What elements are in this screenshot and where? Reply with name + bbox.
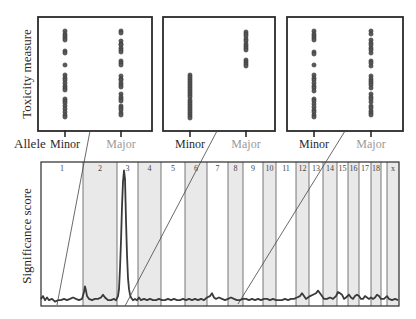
significance-axis-title: Significance score <box>19 188 34 284</box>
data-point-minor <box>312 63 316 67</box>
data-point-major <box>119 85 123 89</box>
chromosome-label-9: 9 <box>251 164 255 173</box>
data-point-minor <box>312 52 316 56</box>
inset-2: MinorMajor <box>163 17 275 151</box>
chromosome-label-x: x <box>391 164 395 173</box>
chromosome-label-4: 4 <box>148 164 152 173</box>
chromosome-label-12: 12 <box>299 164 307 173</box>
data-point-major <box>369 113 373 117</box>
chromosome-label-14: 14 <box>326 164 334 173</box>
chromosome-band-15 <box>337 162 348 306</box>
chromosome-band-3 <box>117 162 138 306</box>
data-point-minor <box>312 38 316 42</box>
data-point-minor <box>188 116 192 120</box>
chromosome-label-3: 3 <box>126 164 130 173</box>
chromosome-band-17 <box>359 162 371 306</box>
chromosome-label-2: 2 <box>98 164 102 173</box>
data-point-major <box>119 31 123 35</box>
chromosome-band-5 <box>161 162 185 306</box>
allele-insets: MinorMajorMinorMajorMinorMajor <box>38 17 403 151</box>
data-point-major <box>369 100 373 104</box>
allele-axis-title: Allele <box>14 136 46 151</box>
data-point-major <box>119 50 123 54</box>
chromosome-band-1 <box>41 162 83 306</box>
chromosome-label-15: 15 <box>339 164 347 173</box>
data-point-minor <box>63 63 67 67</box>
allele-label-minor: Minor <box>299 137 329 151</box>
chromosome-band-16 <box>348 162 359 306</box>
data-point-major <box>119 99 123 103</box>
inset-frame <box>287 17 403 131</box>
allele-label-major: Major <box>106 137 135 151</box>
allele-label-major: Major <box>356 137 385 151</box>
chromosome-band-unlabeled <box>381 162 387 306</box>
chromosome-label-17: 17 <box>361 164 369 173</box>
allele-label-major: Major <box>231 137 260 151</box>
chromosome-band-11 <box>276 162 296 306</box>
chromosome-label-8: 8 <box>234 164 238 173</box>
allele-label-minor: Minor <box>175 137 205 151</box>
chromosome-label-13: 13 <box>312 164 320 173</box>
chromosome-label-10: 10 <box>266 164 274 173</box>
data-point-minor <box>63 115 67 119</box>
chromosome-label-7: 7 <box>216 164 220 173</box>
data-point-minor <box>312 115 316 119</box>
data-point-minor <box>63 88 67 92</box>
chromosome-band-13 <box>309 162 323 306</box>
data-point-minor <box>63 38 67 42</box>
chromosome-band-18 <box>371 162 381 306</box>
inset-3: MinorMajor <box>287 17 403 151</box>
chromosome-band-6 <box>185 162 207 306</box>
chromosome-label-18: 18 <box>372 164 380 173</box>
toxicity-axis-title: Toxicity measure <box>19 29 34 119</box>
chromosome-band-10 <box>263 162 276 306</box>
data-point-minor <box>312 89 316 93</box>
data-point-major <box>244 48 248 52</box>
chromosome-label-11: 11 <box>282 164 290 173</box>
chromosome-band-14 <box>323 162 337 306</box>
figure: 123456789101112131415161718x MinorMajorM… <box>0 0 416 319</box>
data-point-major <box>119 113 123 117</box>
chromosome-label-16: 16 <box>350 164 358 173</box>
chromosome-label-5: 5 <box>171 164 175 173</box>
chromosome-band-4 <box>138 162 161 306</box>
data-point-major <box>369 32 373 36</box>
data-point-major <box>119 63 123 67</box>
data-point-major <box>369 86 373 90</box>
data-point-minor <box>63 51 67 55</box>
chromosome-band-8 <box>228 162 243 306</box>
chromosome-bands <box>41 162 399 306</box>
chromosome-band-12 <box>296 162 309 306</box>
inset-frame <box>38 17 152 131</box>
inset-1: MinorMajor <box>38 17 152 151</box>
data-point-major <box>369 51 373 55</box>
chromosome-band-7 <box>207 162 228 306</box>
chromosome-band-9 <box>243 162 263 306</box>
chromosome-band-2 <box>83 162 117 306</box>
allele-label-minor: Minor <box>50 137 80 151</box>
chromosome-label-1: 1 <box>60 164 64 173</box>
data-point-major <box>244 64 248 68</box>
chromosome-band-x <box>387 162 399 306</box>
inset-frame <box>163 17 275 131</box>
data-point-major <box>369 64 373 68</box>
